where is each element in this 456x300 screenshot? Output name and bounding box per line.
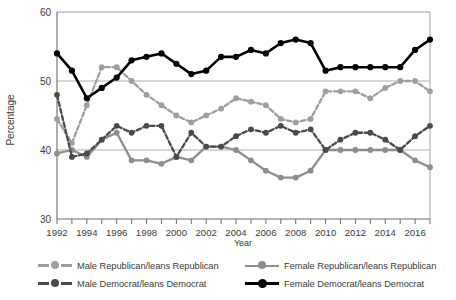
data-point	[367, 95, 373, 101]
line-chart: 60504030 1992199419961998200020022004200…	[0, 0, 456, 300]
data-point	[54, 92, 60, 98]
legend-marker-solid-gray	[245, 260, 279, 271]
legend-item-male-republican[interactable]: Male Republican/leans Republican	[38, 260, 219, 271]
data-point	[144, 123, 150, 129]
y-axis-tick-labels: 60504030	[40, 7, 52, 225]
y-tick-30: 30	[40, 214, 52, 225]
data-point	[99, 137, 105, 143]
data-point	[412, 157, 418, 163]
legend-label-male-democrat: Male Democrat/leans Democrat	[77, 279, 206, 289]
data-point	[129, 78, 135, 84]
data-point	[293, 130, 299, 136]
data-point	[188, 71, 194, 77]
legend-item-male-democrat[interactable]: Male Democrat/leans Democrat	[38, 278, 206, 289]
x-tick-1996: 1996	[106, 227, 127, 238]
data-point	[129, 130, 135, 136]
data-point	[114, 74, 120, 80]
data-point	[129, 57, 135, 63]
legend-item-female-democrat[interactable]: Female Democrat/leans Democrat	[245, 278, 424, 289]
data-point	[367, 130, 373, 136]
data-point	[367, 147, 373, 153]
data-point	[353, 147, 359, 153]
data-point	[84, 151, 90, 157]
data-point	[427, 164, 433, 170]
data-point	[173, 113, 179, 119]
series-line	[57, 40, 430, 99]
data-point	[84, 102, 90, 108]
x-tick-1994: 1994	[76, 227, 98, 238]
data-point	[99, 64, 105, 70]
x-tick-2016: 2016	[404, 227, 425, 238]
series-female-republican-leans-republican	[54, 130, 433, 181]
data-point	[308, 116, 314, 122]
data-point	[69, 68, 75, 74]
x-tick-2004: 2004	[225, 227, 247, 238]
data-point	[54, 50, 60, 56]
data-point	[248, 157, 254, 163]
x-tick-2002: 2002	[196, 227, 217, 238]
x-tick-1992: 1992	[46, 227, 67, 238]
data-point	[159, 161, 165, 167]
data-point	[322, 68, 328, 74]
x-axis-tick-labels: 1992199419961998200020022004200620082010…	[46, 227, 425, 238]
data-point	[338, 137, 344, 143]
data-series-layer	[54, 37, 433, 181]
x-tick-2010: 2010	[315, 227, 336, 238]
data-point	[323, 88, 329, 94]
data-point	[353, 88, 359, 94]
data-point	[338, 147, 344, 153]
data-point	[427, 88, 433, 94]
x-tick-2000: 2000	[166, 227, 187, 238]
data-point	[114, 123, 120, 129]
data-point	[233, 133, 239, 139]
legend-label-female-democrat: Female Democrat/leans Democrat	[284, 279, 424, 289]
data-point	[427, 37, 433, 43]
plot-axes	[57, 12, 430, 219]
data-point	[158, 50, 164, 56]
legend-marker-dashed-light	[38, 260, 72, 271]
series-line	[57, 133, 430, 178]
data-point	[203, 113, 209, 119]
data-point	[278, 123, 284, 129]
data-point	[248, 126, 254, 132]
y-tick-40: 40	[40, 145, 52, 156]
data-point	[248, 47, 254, 53]
series-line	[57, 95, 430, 157]
plot-gridlines	[57, 12, 430, 219]
data-point	[233, 95, 239, 101]
x-axis-ticks	[57, 219, 430, 224]
data-point	[248, 99, 254, 105]
chart-legend: Male Republican/leans Republican Female …	[0, 252, 456, 300]
x-tick-1998: 1998	[136, 227, 157, 238]
data-point	[263, 168, 269, 174]
data-point	[412, 78, 418, 84]
data-point	[143, 54, 149, 60]
data-point	[159, 102, 165, 108]
data-point	[144, 92, 150, 98]
data-point	[353, 130, 359, 136]
data-point	[114, 64, 120, 70]
data-point	[54, 151, 60, 157]
legend-item-female-republican[interactable]: Female Republican/leans Republican	[245, 260, 436, 271]
data-point	[218, 106, 224, 112]
data-point	[308, 40, 314, 46]
data-point	[397, 64, 403, 70]
y-tick-60: 60	[40, 7, 52, 18]
data-point	[293, 37, 299, 43]
data-point	[99, 85, 105, 91]
data-point	[233, 147, 239, 153]
data-point	[293, 175, 299, 181]
data-point	[218, 144, 224, 150]
x-tick-2006: 2006	[255, 227, 276, 238]
data-point	[427, 123, 433, 129]
data-point	[233, 54, 239, 60]
data-point	[382, 85, 388, 91]
data-point	[308, 168, 314, 174]
data-point	[203, 68, 209, 74]
data-point	[412, 133, 418, 139]
data-point	[188, 130, 194, 136]
legend-marker-dashed-dark	[38, 278, 72, 289]
x-tick-2014: 2014	[375, 227, 397, 238]
data-point	[144, 157, 150, 163]
legend-label-female-republican: Female Republican/leans Republican	[284, 261, 436, 271]
